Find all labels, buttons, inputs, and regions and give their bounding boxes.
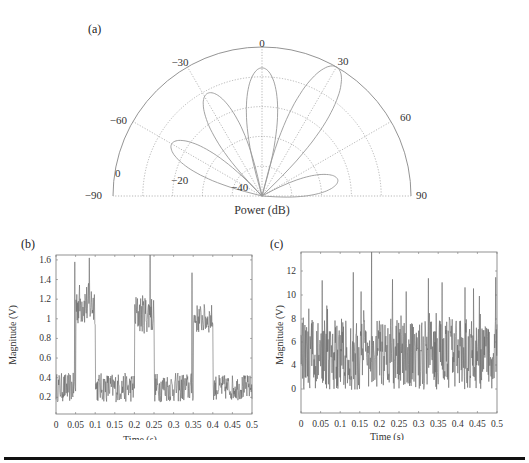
svg-text:0.4: 0.4 (452, 419, 464, 429)
svg-text:1.6: 1.6 (39, 255, 51, 265)
svg-text:60: 60 (400, 111, 412, 123)
svg-text:10: 10 (287, 290, 297, 300)
svg-text:0.15: 0.15 (351, 419, 368, 429)
ylabel-b: Magnitude (V) (7, 305, 19, 365)
svg-text:0.4: 0.4 (207, 420, 219, 430)
svg-text:0.15: 0.15 (106, 420, 123, 430)
svg-text:12: 12 (287, 266, 297, 276)
svg-text:0.8: 0.8 (39, 333, 51, 343)
svg-text:90: 90 (416, 189, 428, 201)
svg-text:0.3: 0.3 (168, 420, 180, 430)
xlabel-c: Time (s) (370, 431, 404, 440)
svg-text:0.5: 0.5 (246, 420, 258, 430)
svg-text:0: 0 (259, 37, 265, 49)
svg-text:0.2: 0.2 (373, 419, 385, 429)
svg-text:0.1: 0.1 (89, 420, 101, 430)
svg-text:0.35: 0.35 (185, 420, 202, 430)
svg-text:−40: −40 (231, 181, 249, 193)
svg-text:−20: −20 (171, 174, 189, 186)
line-chart-c: 00.050.10.150.20.250.30.350.40.450.50468… (265, 240, 529, 440)
svg-text:−90: −90 (85, 189, 103, 201)
svg-text:1.2: 1.2 (39, 294, 51, 304)
svg-text:0.45: 0.45 (469, 419, 486, 429)
svg-text:−60: −60 (110, 114, 128, 126)
svg-text:0: 0 (115, 167, 121, 179)
svg-text:0.6: 0.6 (39, 353, 51, 363)
svg-text:0.45: 0.45 (224, 420, 241, 430)
svg-text:8: 8 (291, 314, 296, 324)
svg-text:−30: −30 (171, 56, 189, 68)
polar-chart: −90−60−300306090−40−200 Power (dB) (0, 0, 529, 230)
svg-text:1: 1 (46, 314, 51, 324)
svg-text:0.3: 0.3 (413, 419, 425, 429)
svg-text:0.25: 0.25 (391, 419, 408, 429)
svg-text:4: 4 (291, 360, 296, 370)
svg-text:0.2: 0.2 (39, 392, 51, 402)
line-chart-b: 00.050.10.150.20.250.30.350.40.450.50.20… (0, 240, 265, 440)
polar-grid (113, 47, 411, 196)
svg-text:0.25: 0.25 (146, 420, 163, 430)
svg-text:0.4: 0.4 (39, 373, 51, 383)
signal-trace-b (56, 255, 252, 402)
svg-text:0.1: 0.1 (334, 419, 346, 429)
caption-rule (4, 457, 525, 460)
svg-text:0: 0 (299, 419, 304, 429)
svg-text:0.05: 0.05 (67, 420, 84, 430)
svg-text:0.05: 0.05 (312, 419, 329, 429)
svg-text:30: 30 (338, 55, 350, 67)
polar-lobes (171, 66, 342, 197)
svg-text:1.4: 1.4 (39, 275, 51, 285)
svg-text:0.5: 0.5 (491, 419, 503, 429)
svg-text:0: 0 (54, 420, 59, 430)
svg-text:6: 6 (291, 337, 296, 347)
svg-text:0: 0 (291, 384, 296, 394)
xlabel-b: Time (s) (123, 434, 157, 440)
svg-text:0.2: 0.2 (128, 420, 140, 430)
polar-xlabel: Power (dB) (234, 203, 290, 217)
svg-text:0.35: 0.35 (430, 419, 447, 429)
signal-trace-c (301, 252, 497, 390)
ylabel-c: Magnitude (V) (274, 305, 286, 365)
axis-ticks-b: 00.050.10.150.20.250.30.350.40.450.50.20… (39, 255, 258, 430)
